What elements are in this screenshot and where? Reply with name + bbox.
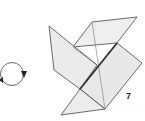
turn-over-icon bbox=[0, 63, 27, 86]
step-number: 7 bbox=[126, 91, 131, 101]
upper-flap bbox=[73, 17, 137, 47]
origami-diagram bbox=[0, 0, 145, 121]
